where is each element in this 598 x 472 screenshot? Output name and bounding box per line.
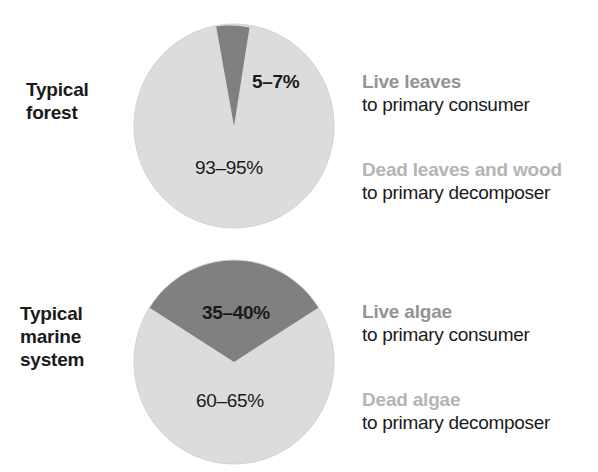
panel-caption-typical-marine-system: Typical marine system bbox=[20, 302, 140, 371]
legend-sub-forest-live: to primary consumer bbox=[362, 93, 598, 117]
legend-marine-dead: Dead algae to primary decomposer bbox=[362, 388, 598, 435]
legend-sub-forest-dead: to primary decomposer bbox=[362, 181, 598, 205]
legend-forest-live: Live leaves to primary consumer bbox=[362, 70, 598, 117]
legend-head-forest-live: Live leaves bbox=[362, 70, 598, 93]
pie-chart-typical-marine-system bbox=[133, 259, 335, 465]
pie-chart-typical-forest bbox=[133, 23, 335, 229]
legend-sub-marine-dead: to primary decomposer bbox=[362, 411, 598, 435]
pie-svg-typical-forest bbox=[133, 23, 335, 229]
legend-head-marine-live: Live algae bbox=[362, 300, 598, 323]
legend-sub-marine-live: to primary consumer bbox=[362, 323, 598, 347]
figure-canvas: Typical forest 5–7% 93–95% Live leaves t… bbox=[0, 0, 598, 472]
pie-value-forest-dead: 93–95% bbox=[195, 157, 263, 178]
legend-marine-live: Live algae to primary consumer bbox=[362, 300, 598, 347]
pie-value-marine-live: 35–40% bbox=[202, 302, 270, 323]
pie-value-marine-dead: 60–65% bbox=[196, 390, 264, 411]
legend-head-marine-dead: Dead algae bbox=[362, 388, 598, 411]
legend-forest-dead: Dead leaves and wood to primary decompos… bbox=[362, 158, 598, 205]
pie-svg-typical-marine-system bbox=[133, 259, 335, 465]
legend-head-forest-dead: Dead leaves and wood bbox=[362, 158, 598, 181]
panel-caption-typical-forest: Typical forest bbox=[26, 78, 136, 124]
pie-value-forest-live: 5–7% bbox=[252, 71, 299, 92]
